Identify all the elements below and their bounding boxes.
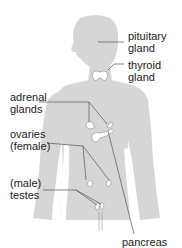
label-adrenal-glands: adrenal glands	[10, 91, 47, 115]
label-line: (female)	[10, 140, 50, 152]
label-pituitary-gland: pituitary gland	[128, 30, 167, 54]
label-ovaries: ovaries (female)	[10, 128, 50, 152]
label-line: testes	[10, 189, 41, 201]
label-pancreas: pancreas	[122, 236, 167, 248]
label-line: gland	[128, 42, 167, 54]
label-thyroid-gland: thyroid gland	[128, 59, 161, 83]
label-line: glands	[10, 103, 47, 115]
label-line: gland	[128, 71, 161, 83]
label-line: pancreas	[122, 236, 167, 248]
label-testes: (male) testes	[10, 177, 41, 201]
label-line: thyroid	[128, 59, 161, 71]
label-line: ovaries	[10, 128, 50, 140]
label-line: pituitary	[128, 30, 167, 42]
label-line: adrenal	[10, 91, 47, 103]
label-line: (male)	[10, 177, 41, 189]
